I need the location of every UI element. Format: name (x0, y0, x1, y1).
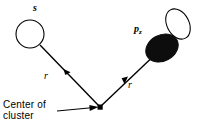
center-of-cluster-caption-line2: cluster (3, 110, 34, 121)
radius-vector-left (40, 45, 100, 107)
orbital-geometry-figure: s pz r r Center ofcluster (0, 0, 204, 130)
center-of-cluster-caption: Center ofcluster (3, 99, 46, 121)
s-orbital-label: s (33, 2, 37, 13)
center-leader-line (57, 108, 94, 112)
radius-label-right: r (128, 79, 132, 90)
center-leader (57, 104, 99, 111)
s-orbital-circle (16, 20, 44, 48)
radius-line-left (40, 45, 100, 107)
pz-orbital-label-subscript: z (139, 28, 142, 36)
center-leader-arrowhead (89, 104, 98, 111)
center-of-cluster-node (98, 105, 103, 110)
center-of-cluster-caption-line1: Center of (3, 99, 46, 110)
pz-orbital-label: pz (134, 23, 142, 36)
radius-label-left: r (44, 70, 48, 81)
